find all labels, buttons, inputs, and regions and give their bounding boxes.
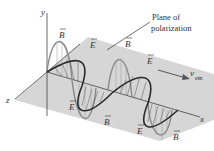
z-axis-label: z	[5, 95, 10, 105]
svg-text:E: E	[136, 126, 143, 136]
polarization-plane	[15, 37, 214, 141]
svg-text:B: B	[173, 132, 179, 142]
em-wave-diagram: y z x Plane of polarization v em B B B B…	[0, 0, 214, 151]
svg-text:B: B	[125, 39, 131, 49]
svg-text:E: E	[146, 56, 153, 66]
annotation-line-2: polarization	[151, 23, 192, 33]
annotation-line-1: Plane of	[152, 12, 180, 22]
svg-text:B: B	[59, 30, 65, 40]
velocity-label: v	[190, 68, 194, 78]
diagram-canvas: y z x Plane of polarization v em B B B B…	[0, 0, 214, 151]
velocity-subscript: em	[195, 75, 203, 81]
svg-text:B: B	[104, 117, 110, 127]
svg-text:E: E	[89, 40, 96, 50]
x-axis-label: x	[199, 114, 204, 124]
svg-text:E: E	[68, 102, 75, 112]
y-axis-label: y	[40, 7, 45, 17]
